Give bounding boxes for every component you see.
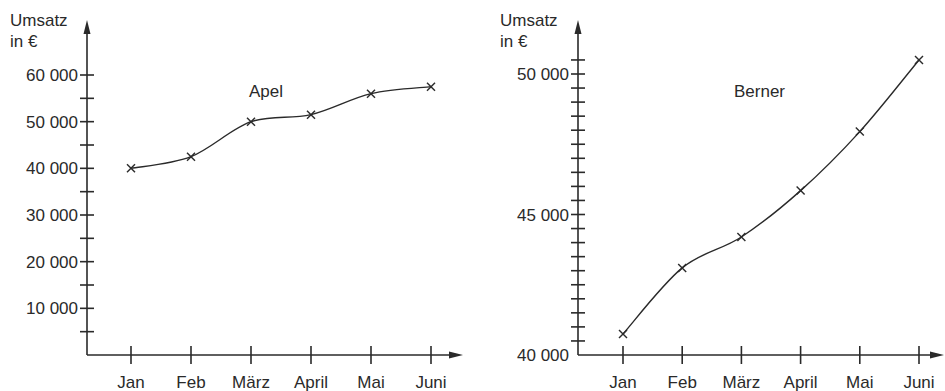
x-tick-label: März (232, 373, 270, 391)
left-y-axis-title-line2: in € (10, 32, 38, 51)
y-tick-label: 50 000 (517, 65, 569, 84)
left-x-ticks: JanFebMärzAprilMaiJuni (117, 346, 446, 391)
y-tick-label: 60 000 (26, 66, 78, 85)
y-tick-label: 40 000 (26, 159, 78, 178)
apel-chart: Umsatz in € 10 00020 00030 00040 00050 0… (10, 11, 463, 391)
left-y-ticks: 10 00020 00030 00040 00050 00060 000 (26, 66, 94, 332)
x-tick-label: April (294, 373, 328, 391)
right-y-axis-title-line1: Umsatz (500, 11, 558, 30)
left-y-axis-arrow-icon (84, 20, 91, 34)
right-y-axis-title-line2: in € (500, 32, 528, 51)
left-y-axis-title-line1: Umsatz (10, 11, 68, 30)
right-y-ticks: 40 00045 00050 000 (517, 60, 585, 365)
y-tick-label: 45 000 (517, 206, 569, 225)
x-tick-label: Feb (668, 373, 697, 391)
sales-charts: Umsatz in € 10 00020 00030 00040 00050 0… (0, 0, 945, 391)
left-chart-title: Apel (249, 82, 283, 101)
x-tick-label: März (723, 373, 761, 391)
x-tick-label: Mai (846, 373, 873, 391)
x-tick-label: Feb (176, 373, 205, 391)
x-tick-label: Jan (609, 373, 636, 391)
y-tick-label: 40 000 (517, 346, 569, 365)
berner-chart: Umsatz in € 40 00045 00050 000 JanFebMär… (500, 11, 944, 391)
right-x-ticks: JanFebMärzAprilMaiJuni (609, 346, 934, 391)
x-tick-label: Juni (415, 373, 446, 391)
right-chart-title: Berner (734, 82, 785, 101)
y-tick-label: 50 000 (26, 113, 78, 132)
y-tick-label: 10 000 (26, 299, 78, 318)
x-tick-label: Jan (117, 373, 144, 391)
x-tick-label: Juni (903, 373, 934, 391)
right-y-axis-arrow-icon (575, 20, 582, 34)
left-x-axis-arrow-icon (449, 352, 463, 359)
berner-sales-line (623, 60, 919, 334)
y-tick-label: 20 000 (26, 253, 78, 272)
x-tick-label: Mai (357, 373, 384, 391)
right-x-axis-arrow-icon (930, 352, 944, 359)
y-tick-label: 30 000 (26, 206, 78, 225)
x-tick-label: April (784, 373, 818, 391)
